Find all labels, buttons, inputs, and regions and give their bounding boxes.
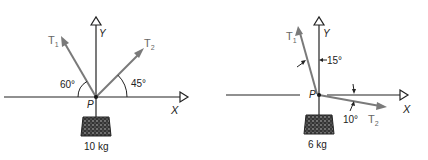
mass-label: 6 kg — [308, 139, 327, 150]
t1-label: T1 — [286, 30, 297, 44]
angle-arc-45 — [118, 75, 127, 97]
y-axis-arrow-icon — [91, 17, 101, 25]
x-axis-arrow-icon — [180, 92, 188, 102]
t2-arrowhead-icon — [376, 102, 387, 110]
tension-t2-vector — [96, 48, 144, 97]
point-p-label: P — [309, 89, 316, 100]
x-axis-label: X — [170, 104, 179, 116]
angle-indicator-15 — [297, 58, 327, 67]
left-diagram: X Y T1 T2 60° 45° P 10 kg — [4, 17, 188, 152]
x-axis-label: X — [402, 103, 411, 115]
t1-label: T1 — [48, 34, 59, 48]
angle-arc-60 — [78, 81, 87, 97]
angle-indicator-10 — [350, 84, 356, 111]
right-diagram: X Y T1 15° T2 — [226, 17, 411, 150]
angle-label-10: 10° — [343, 114, 358, 125]
angle-label-15: 15° — [327, 55, 342, 66]
t1-arrowhead-icon — [295, 26, 303, 36]
y-axis-label: Y — [99, 28, 107, 39]
force-diagrams: X Y T1 T2 60° 45° P 10 kg — [0, 0, 428, 160]
y-axis-arrow-icon — [314, 17, 324, 25]
y-axis-label: Y — [323, 28, 331, 39]
point-p-label: P — [87, 99, 94, 110]
mass-label: 10 kg — [84, 141, 108, 152]
mass-block — [304, 115, 334, 134]
x-axis-arrow-icon — [400, 90, 408, 100]
t2-label: T2 — [368, 113, 379, 127]
angle-label-60: 60° — [60, 79, 75, 90]
mass-block — [81, 117, 111, 136]
angle-label-45: 45° — [131, 78, 146, 89]
t2-label: T2 — [144, 37, 155, 51]
